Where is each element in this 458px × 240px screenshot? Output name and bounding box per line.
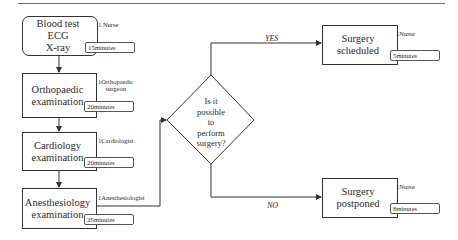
outcome-surgery-scheduled: Surgery scheduled [322, 25, 398, 65]
outcome-surgery-postponed: Surgery postponed [322, 178, 398, 218]
staff-label: 1Anesthesiologist [98, 194, 145, 201]
staff-label: 1Nurse [396, 30, 415, 37]
staff-label: 1Orthopaedicsurgeon [98, 78, 133, 92]
duration-box: 20minutes [84, 157, 134, 168]
staff-label: 1Nurse [396, 183, 415, 190]
no-edge-label: NO [267, 201, 278, 210]
duration-box: 20minutes [84, 101, 134, 112]
staff-label: 1 Nurse [98, 21, 118, 28]
step-label: examination [32, 152, 84, 164]
step-label: examination [32, 96, 84, 108]
outcome-label: Surgery postponed [323, 186, 393, 210]
duration-box: 25minutes [84, 214, 134, 225]
yes-edge-label: YES [265, 34, 278, 43]
staff-label: 1Cardiologist [98, 137, 133, 144]
step-label: Anesthesiology [25, 197, 90, 209]
duration-box: 5minutes [390, 50, 440, 61]
step-label: examination [25, 209, 90, 221]
decision-node: Is it possible to perform surgery? [181, 96, 241, 149]
duration-box: 15minutes [85, 42, 135, 53]
outcome-label: Surgery scheduled [323, 33, 393, 57]
step-label: Cardiology [32, 140, 84, 152]
duration-box: 8minutes [390, 203, 440, 214]
step-label: Blood test [37, 18, 80, 30]
step-label: X-ray [37, 42, 80, 54]
step-label: Orthopaedic [32, 84, 84, 96]
step-label: ECG [37, 30, 80, 42]
